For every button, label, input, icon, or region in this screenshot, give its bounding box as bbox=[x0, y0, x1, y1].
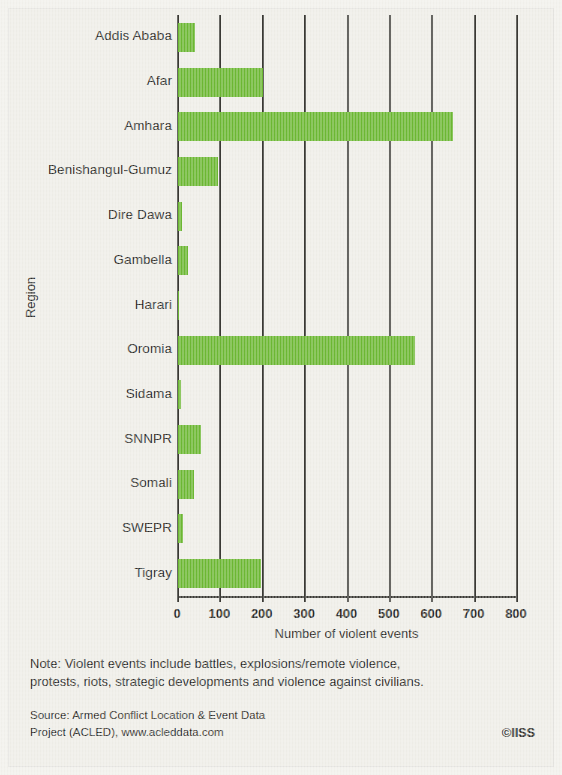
figure-footer: Note: Violent events include battles, ex… bbox=[30, 655, 535, 740]
source-line-2: Project (ACLED), www.acleddata.com bbox=[30, 724, 535, 741]
bar-dire-dawa bbox=[178, 202, 182, 231]
tick-mark-400 bbox=[347, 596, 349, 602]
source-row: Source: Armed Conflict Location & Event … bbox=[30, 707, 535, 740]
plot-area: Addis AbabaAfarAmharaBenishangul-GumuzDi… bbox=[0, 0, 562, 640]
note-text: Note: Violent events include battles, ex… bbox=[30, 655, 535, 691]
bar-gambella bbox=[178, 246, 188, 275]
tick-mark-800 bbox=[516, 596, 518, 602]
gridline-500 bbox=[389, 15, 391, 596]
tick-mark-600 bbox=[431, 596, 433, 602]
iiss-credit: ©IISS bbox=[502, 725, 535, 740]
note-line-2: protests, riots, strategic developments … bbox=[30, 673, 535, 691]
bar-swepr bbox=[178, 514, 183, 543]
gridline-800 bbox=[516, 15, 518, 596]
tick-mark-500 bbox=[389, 596, 391, 602]
source-line-1: Source: Armed Conflict Location & Event … bbox=[30, 707, 535, 724]
category-label-sidama: Sidama bbox=[4, 386, 172, 401]
category-label-dire-dawa: Dire Dawa bbox=[4, 207, 172, 222]
category-label-tigray: Tigray bbox=[4, 565, 172, 580]
gridline-200 bbox=[262, 15, 264, 596]
tick-mark-200 bbox=[262, 596, 264, 602]
bar-oromia bbox=[178, 336, 415, 365]
category-label-amhara: Amhara bbox=[4, 118, 172, 133]
bar-somali bbox=[178, 470, 194, 499]
tick-mark-0 bbox=[177, 596, 179, 602]
bar-afar bbox=[178, 68, 263, 97]
x-tick-label-800: 800 bbox=[486, 606, 546, 621]
category-label-benishangul-gumuz: Benishangul-Gumuz bbox=[4, 162, 172, 177]
gridline-600 bbox=[431, 15, 433, 596]
gridline-100 bbox=[219, 15, 221, 596]
x-axis-title: Number of violent events bbox=[177, 626, 516, 641]
bar-sidama bbox=[178, 380, 181, 409]
tick-mark-300 bbox=[304, 596, 306, 602]
gridline-300 bbox=[304, 15, 306, 596]
tick-mark-700 bbox=[474, 596, 476, 602]
chart-figure: Addis AbabaAfarAmharaBenishangul-GumuzDi… bbox=[0, 0, 562, 775]
bar-tigray bbox=[178, 559, 261, 588]
category-label-swepr: SWEPR bbox=[4, 520, 172, 535]
note-line-1: Note: Violent events include battles, ex… bbox=[30, 655, 535, 673]
bar-benishangul-gumuz bbox=[178, 157, 218, 186]
bar-harari bbox=[178, 291, 179, 320]
gridline-700 bbox=[474, 15, 476, 596]
category-label-addis-ababa: Addis Ababa bbox=[4, 28, 172, 43]
source-text: Source: Armed Conflict Location & Event … bbox=[30, 707, 535, 740]
gridline-400 bbox=[347, 15, 349, 596]
bar-addis-ababa bbox=[178, 23, 195, 52]
category-label-afar: Afar bbox=[4, 73, 172, 88]
bar-amhara bbox=[178, 112, 453, 141]
y-axis-title: Region bbox=[23, 248, 38, 348]
tick-mark-100 bbox=[219, 596, 221, 602]
bar-snnpr bbox=[178, 425, 201, 454]
category-label-snnpr: SNNPR bbox=[4, 431, 172, 446]
category-label-somali: Somali bbox=[4, 475, 172, 490]
